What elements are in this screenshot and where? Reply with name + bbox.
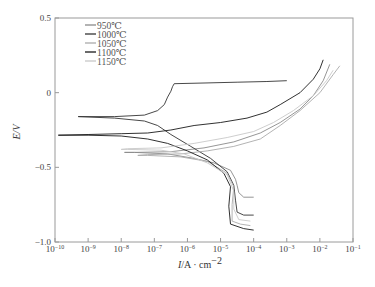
series-line-1150 (121, 70, 333, 221)
x-tick-label: 10−6 (180, 244, 195, 254)
y-tick-label: −0.5 (35, 162, 52, 172)
x-tick-label: 10−3 (279, 244, 294, 254)
data-series (58, 60, 340, 230)
legend: 950℃1000℃1050℃1100℃1150℃ (85, 21, 127, 67)
y-tick-label: 0.5 (40, 13, 52, 23)
x-tick-label: 10−2 (312, 244, 327, 254)
x-axis-title: I/A · cm−2 (177, 255, 222, 270)
x-axis-unit-exponent: −2 (211, 255, 222, 266)
x-tick-label: 10−1 (345, 244, 360, 254)
y-axis-title: E/V (11, 123, 22, 141)
series-line-950 (125, 64, 330, 197)
x-axis-ticks: 10−1010−910−810−710−610−510−410−310−210−… (46, 238, 361, 254)
x-tick-label: 10−7 (147, 244, 162, 254)
series-line-1050 (138, 66, 340, 226)
series-line-1000 (78, 81, 287, 215)
x-tick-label: 10−9 (80, 244, 95, 254)
legend-label: 1150℃ (97, 57, 127, 67)
y-tick-label: −1.0 (35, 237, 52, 247)
x-tick-label: 10−4 (246, 244, 261, 254)
polarization-chart: 10−1010−910−810−710−610−510−410−310−210−… (0, 0, 375, 287)
x-axis-unit: /A · cm (181, 259, 211, 270)
series-line-1100 (58, 60, 323, 230)
x-tick-label: 10−5 (213, 244, 228, 254)
x-tick-label: 10−8 (114, 244, 129, 254)
y-tick-label: 0 (47, 88, 52, 98)
